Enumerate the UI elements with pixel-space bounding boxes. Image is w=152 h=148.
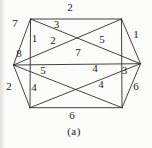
edge-weight-label-left-vertical-13: 4	[31, 81, 37, 93]
edge-weight-label-lower-right-15: 6	[133, 80, 139, 92]
edge-weight-label-left-vertical-4: 1	[32, 32, 38, 44]
edge-weight-label-horizontal-8: 7	[75, 46, 81, 58]
edge-weight-label-upper-right-9: 1	[133, 28, 139, 40]
edge-weight-label-top-0: 2	[67, 1, 73, 13]
edge-weight-label-upper-left-2: 8	[16, 47, 22, 59]
edge-weight-label-diag-TL-R-5: 3	[54, 18, 60, 30]
edge-weight-label-bottom-16: 6	[69, 109, 75, 121]
figure-caption: (a)	[57, 125, 91, 137]
edge-left-vertical	[30, 19, 31, 108]
edge-weight-label-diag-BL-R-14: 4	[98, 78, 104, 90]
edge-weight-label-diag-L-TR-6: 2	[50, 34, 56, 46]
edge-weight-label-horizontal-12: 4	[92, 62, 98, 74]
edge-diag-L-TR	[14, 19, 122, 65]
edge-weight-label-right-vertical-10: 3	[122, 64, 128, 76]
edge-weight-label-diag-TL-R-7: 5	[99, 33, 105, 45]
edge-weight-label-horizontal-11: 5	[40, 64, 46, 76]
edge-weight-label-upper-left-1: 7	[12, 17, 18, 29]
scanned-figure-page: 27821325713544466 (a)	[0, 0, 152, 148]
edge-weight-label-lower-left-3: 2	[6, 80, 12, 92]
edge-lower-left	[14, 65, 31, 108]
